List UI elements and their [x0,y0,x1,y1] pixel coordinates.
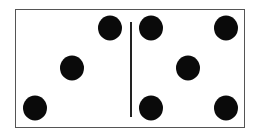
right-pip [214,96,238,121]
left-pip [98,16,122,41]
left-pip [60,56,84,81]
right-pip [214,16,238,41]
left-pip [23,96,47,121]
right-pip [139,16,163,41]
right-pip [176,56,200,81]
domino-divider [130,22,132,117]
right-pip [139,96,163,121]
